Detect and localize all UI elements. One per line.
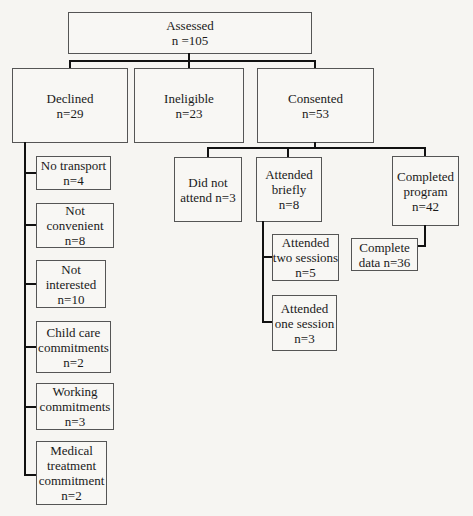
connector-line — [188, 60, 190, 68]
connector-line — [24, 224, 36, 226]
node-no-transport: No transport n=4 — [36, 156, 111, 190]
connector-line — [207, 147, 209, 157]
node-completed-program: Completed program n=42 — [392, 156, 459, 226]
node-label: program — [403, 184, 447, 199]
node-label: commitments — [38, 340, 109, 355]
node-count: n=3 — [294, 331, 314, 346]
node-count: n =105 — [172, 33, 209, 48]
node-count: n=5 — [295, 265, 315, 280]
node-not-convenient: Not convenient n=8 — [36, 203, 114, 248]
node-label: Child care — [47, 325, 101, 340]
node-label: Working — [52, 384, 97, 399]
node-label: convenient — [46, 218, 103, 233]
node-label: Assessed — [166, 18, 214, 33]
node-consented: Consented n=53 — [257, 68, 374, 143]
connector-line — [24, 346, 36, 348]
node-count: n=8 — [279, 197, 299, 212]
node-count: n=29 — [57, 106, 84, 121]
connector-line — [69, 60, 316, 62]
node-working: Working commitments n=3 — [36, 383, 114, 430]
node-label: Not — [65, 203, 85, 218]
node-did-not-attend: Did not attend n=3 — [174, 157, 242, 222]
node-declined: Declined n=29 — [12, 68, 128, 143]
node-count: n=3 — [65, 414, 85, 429]
node-count: n=8 — [65, 233, 85, 248]
node-label: Completed — [397, 169, 454, 184]
node-count: n=4 — [63, 173, 83, 188]
node-count: n=2 — [61, 488, 81, 503]
node-count: data n=36 — [359, 255, 411, 270]
node-label: Medical — [50, 443, 93, 458]
node-label: interested — [46, 277, 97, 292]
node-ineligible: Ineligible n=23 — [134, 68, 244, 143]
node-not-interested: Not interested n=10 — [36, 260, 106, 308]
node-label: Attended — [265, 167, 313, 182]
connector-line — [262, 321, 272, 323]
node-count: n=42 — [412, 199, 439, 214]
node-two-sessions: Attended two sessions n=5 — [272, 234, 339, 281]
connector-line — [262, 221, 264, 323]
node-label: commitments — [40, 399, 111, 414]
connector-line — [24, 406, 36, 408]
node-label: Attended — [281, 301, 329, 316]
node-label: one session — [275, 316, 335, 331]
connector-line — [24, 142, 26, 476]
node-count: n=10 — [58, 292, 85, 307]
node-count: attend n=3 — [180, 190, 235, 205]
node-complete-data: Complete data n=36 — [351, 238, 418, 271]
node-label: Declined — [47, 91, 94, 106]
connector-line — [24, 474, 36, 476]
node-label: Did not — [188, 175, 227, 190]
node-assessed: Assessed n =105 — [68, 12, 312, 54]
node-child-care: Child care commitments n=2 — [36, 321, 111, 373]
connector-line — [424, 147, 426, 156]
connector-line — [424, 225, 426, 247]
connector-line — [287, 147, 289, 157]
connector-line — [207, 147, 426, 149]
node-label: Ineligible — [164, 91, 214, 106]
node-label: two sessions — [273, 250, 338, 265]
node-count: n=23 — [176, 106, 203, 121]
connector-line — [314, 60, 316, 68]
node-one-session: Attended one session n=3 — [272, 295, 337, 351]
node-label: Consented — [288, 91, 343, 106]
connector-line — [69, 60, 71, 68]
node-label: commitment — [39, 473, 105, 488]
node-label: Attended — [282, 235, 330, 250]
node-count: n=2 — [63, 355, 83, 370]
node-label: briefly — [272, 182, 307, 197]
node-count: n=53 — [302, 106, 329, 121]
node-attended-briefly: Attended briefly n=8 — [256, 157, 322, 222]
node-medical: Medical treatment commitment n=2 — [36, 441, 107, 505]
connector-line — [417, 245, 426, 247]
connector-line — [262, 256, 272, 258]
node-label: Complete — [359, 240, 410, 255]
connector-line — [24, 172, 36, 174]
node-label: Not — [61, 262, 81, 277]
node-label: No transport — [41, 158, 106, 173]
connector-line — [24, 283, 36, 285]
node-label: treatment — [47, 458, 96, 473]
